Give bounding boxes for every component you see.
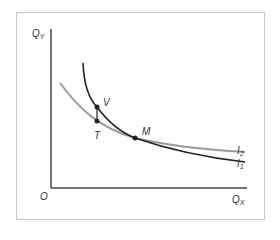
point-m (133, 136, 138, 141)
curve-i1-label-sub: 1 (240, 163, 244, 170)
point-t-label: T (94, 131, 100, 141)
origin-label: O (40, 192, 48, 202)
x-axis-label: QX (232, 195, 244, 206)
y-axis-label-main: Q (32, 28, 40, 39)
x-axis-label-main: Q (232, 194, 240, 205)
point-t (95, 119, 100, 124)
x-axis-label-sub: X (240, 199, 245, 206)
y-axis-label-sub: Y (40, 33, 45, 40)
curve-i1-label: I1 (237, 159, 244, 170)
curve-i2-label-sub: 2 (240, 150, 244, 157)
point-v-label: V (103, 98, 110, 108)
curve-i2-label: I2 (237, 146, 244, 157)
point-v (95, 105, 100, 110)
y-axis-label: QY (32, 29, 44, 40)
curve-i1 (83, 63, 245, 162)
point-m-label: M (142, 127, 150, 137)
